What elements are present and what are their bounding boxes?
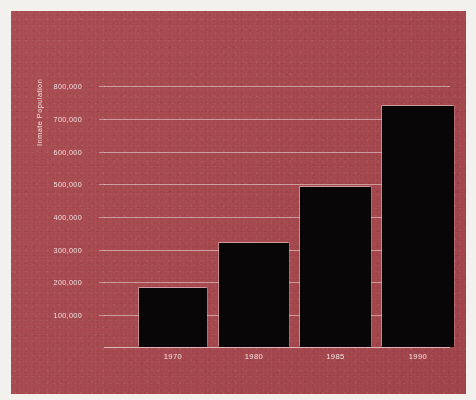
bar-1985 [300,187,371,347]
y-axis-title: Inmate Population [35,79,44,146]
ytick-label-700000: 700,000 [16,115,82,124]
xtick-label-1985: 1985 [300,352,371,361]
bar-1970 [139,288,207,347]
ytick-label-300000: 300,000 [16,246,82,255]
ytick-label-100000: 100,000 [16,311,82,320]
bar-1990 [382,106,454,347]
plot-area: 800,000 700,000 600,000 500,000 400,000 … [11,11,466,394]
ytick-label-500000: 500,000 [16,180,82,189]
bar-chart-panel: 800,000 700,000 600,000 500,000 400,000 … [11,11,466,394]
xtick-label-1990: 1990 [382,352,454,361]
tick-mark-600000 [99,152,105,153]
tick-mark-100000 [99,315,105,316]
tick-mark-700000 [99,119,105,120]
scanned-page: 800,000 700,000 600,000 500,000 400,000 … [0,0,476,400]
ytick-label-800000: 800,000 [16,82,82,91]
x-axis-baseline [104,347,450,348]
ytick-label-200000: 200,000 [16,278,82,287]
ytick-label-400000: 400,000 [16,213,82,222]
gridline-800000 [104,86,450,87]
tick-mark-300000 [99,250,105,251]
tick-mark-500000 [99,184,105,185]
xtick-label-1980: 1980 [219,352,289,361]
tick-mark-200000 [99,282,105,283]
ytick-label-600000: 600,000 [16,148,82,157]
tick-mark-400000 [99,217,105,218]
bar-1980 [219,243,289,347]
tick-mark-800000 [99,86,105,87]
xtick-label-1970: 1970 [139,352,207,361]
